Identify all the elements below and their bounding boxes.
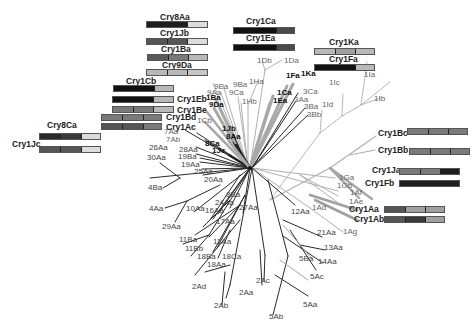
domain-bar-cry1eb — [112, 96, 174, 103]
leaf-label: 16Aa — [205, 207, 224, 215]
leaf-label: 2Aa — [239, 289, 253, 297]
leaf-label: 1Af — [350, 189, 362, 197]
leaf-label: 4Ba — [148, 184, 162, 192]
protein-title: Cry1Aa — [349, 205, 379, 214]
protein-title: Cry1Ja — [372, 166, 400, 175]
domain-bar-cry1cb — [113, 85, 174, 92]
leaf-label: 5Ba — [299, 255, 313, 263]
leaf-label: 2Ab — [214, 302, 228, 310]
leaf-label: 1Ic — [329, 79, 340, 87]
leaf-label: 1Ka — [301, 70, 316, 78]
protein-title: Cry1Ca — [246, 17, 276, 26]
domain-bar-cry1ac — [101, 123, 162, 130]
leaf-label: 1Fa — [286, 72, 300, 80]
leaf-label: 1Gb — [337, 182, 352, 190]
protein-title: Cry1Ka — [329, 38, 359, 47]
leaf-label: 1Ib — [374, 95, 385, 103]
leaf-label: 1Ha — [249, 78, 264, 86]
protein-title: Cry1Jb — [160, 29, 189, 38]
leaf-label: 1Db — [257, 57, 272, 65]
leaf-label: 1Ia — [364, 71, 375, 79]
domain-bar-cry8aa — [146, 21, 208, 28]
leaf-label: 5Aa — [303, 301, 317, 309]
leaf-label: 1Hb — [242, 98, 257, 106]
leaf-label: 29Aa — [162, 223, 181, 231]
leaf-label: 18Aa — [207, 261, 226, 269]
leaf-label: 30Aa — [147, 154, 166, 162]
domain-bar-cry1be — [112, 106, 174, 113]
leaf-label: 21Aa — [317, 229, 336, 237]
domain-bar-cry1jc — [39, 146, 101, 153]
leaf-label: 17Aa — [216, 218, 235, 226]
leaf-label: 11Ba — [179, 236, 197, 244]
leaf-label: 7Ab — [166, 136, 180, 144]
protein-title: Cry1Jc — [12, 140, 40, 149]
leaf-label: 1Id — [322, 101, 333, 109]
domain-bar-cry1bc — [407, 128, 468, 135]
leaf-label: 26Aa — [149, 144, 168, 152]
domain-bar-cry1aa — [384, 206, 445, 213]
protein-title: Cry1Bd — [166, 113, 196, 122]
protein-title: Cry1Bb — [378, 146, 408, 155]
domain-bar-cry1ea — [233, 44, 295, 51]
leaf-label: 1Ad — [312, 204, 326, 212]
leaf-label: 4Aa — [149, 205, 163, 213]
leaf-label: 12Aa — [291, 208, 310, 216]
leaf-label: 1Ae — [349, 198, 363, 206]
domain-bar-cry1fb — [399, 180, 460, 187]
leaf-label: 2Ad — [192, 283, 206, 291]
leaf-label: 27Aa — [239, 204, 258, 212]
leaf-label: 1Cb — [197, 117, 212, 125]
domain-bar-cry1ab — [384, 216, 445, 223]
leaf-label: 5Ab — [269, 313, 283, 321]
leaf-label: 1Jc — [212, 147, 225, 155]
leaf-label: 14Aa — [318, 258, 337, 266]
leaf-label: 3Bb — [307, 111, 321, 119]
leaf-label: 10Aa — [186, 205, 205, 213]
leaf-label: 1Ea — [273, 97, 287, 105]
domain-bar-cry1bd — [101, 114, 162, 121]
phylogenetic-tree-figure: Cry8Aa Cry1Jb Cry1Ba Cry9Da Cry1Cb Cry1E… — [0, 0, 476, 328]
protein-title: Cry1Bc — [378, 129, 408, 138]
leaf-label: 11Aa — [213, 238, 231, 246]
protein-title: Cry1Fa — [329, 55, 358, 64]
leaf-label: 9Ca — [229, 89, 244, 97]
protein-title: Cry1Ea — [246, 34, 275, 43]
leaf-label: 8Aa — [226, 133, 241, 141]
protein-title: Cry1Ab — [354, 215, 384, 224]
leaf-label: 9Da — [209, 101, 224, 109]
protein-title: Cry1Ba — [161, 45, 191, 54]
domain-bar-cry1ja — [399, 168, 460, 175]
domain-bar-cry9da — [146, 69, 208, 76]
leaf-label: 13Aa — [324, 244, 343, 252]
protein-title: Cry8Ca — [47, 121, 77, 130]
leaf-label: 1Ag — [343, 228, 357, 236]
protein-title: Cry1Fb — [365, 179, 394, 188]
domain-bar-cry1bb — [409, 148, 470, 155]
protein-title: Cry1Eb — [177, 95, 207, 104]
leaf-label: 1Ga — [339, 174, 354, 182]
leaf-label: 5Ac — [310, 273, 324, 281]
domain-bar-cry8ca — [39, 133, 101, 140]
leaf-label: 1Da — [284, 57, 299, 65]
leaf-label: 2Ac — [256, 277, 270, 285]
leaf-label: 20Aa — [204, 176, 223, 184]
